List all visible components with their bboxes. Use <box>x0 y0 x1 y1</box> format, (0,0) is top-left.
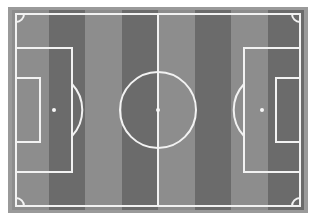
center-spot <box>156 108 160 112</box>
pitch-markings <box>12 10 304 210</box>
goal-area-left <box>16 78 40 142</box>
penalty-spot-left <box>52 108 56 112</box>
goal-area-right <box>276 78 300 142</box>
pitch-diagram <box>0 0 316 221</box>
penalty-area-left <box>16 48 72 172</box>
penalty-area-right <box>244 48 300 172</box>
corner-arc-bottom-right <box>292 198 300 206</box>
penalty-spot-right <box>260 108 264 112</box>
penalty-arc-left <box>72 84 82 136</box>
corner-arc-bottom-left <box>16 198 24 206</box>
corner-arc-top-right <box>292 14 300 22</box>
corner-arc-top-left <box>16 14 24 22</box>
penalty-arc-right <box>234 84 244 136</box>
